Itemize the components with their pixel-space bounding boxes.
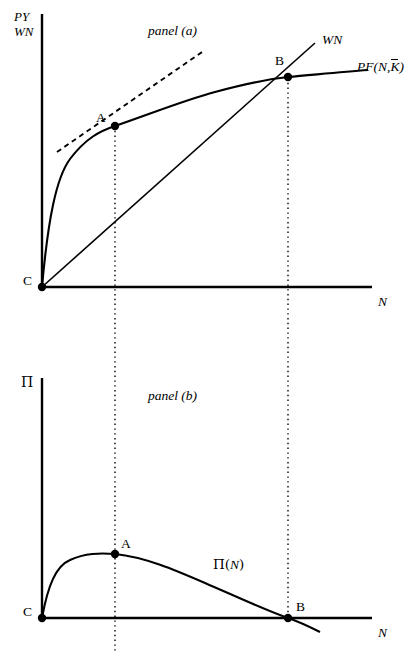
point-b-panel-a — [284, 73, 292, 81]
panel-a-title: panel (a) — [148, 24, 197, 38]
point-c-panel-a — [38, 283, 46, 291]
panel-b-x-axis-label: N — [378, 626, 387, 640]
panel-b-title: panel (b) — [148, 389, 197, 403]
figure-canvas — [0, 0, 411, 652]
profit-function-label: Π(N) — [213, 558, 244, 572]
point-a-panel-a — [111, 122, 119, 130]
point-a-panel-b — [111, 550, 119, 558]
panel-a-y-axis-label-line1: PY — [14, 10, 34, 25]
point-a-label-panel-a: A — [96, 111, 106, 125]
panel-a-group — [38, 14, 372, 291]
pf-label-prefix: PF(N, — [357, 59, 390, 74]
profit-function-curve — [42, 554, 320, 632]
panel-b-y-axis-label: Π — [21, 375, 33, 389]
economics-figure: PY WN panel (a) WN PF(N,K) A B C N Π pan… — [0, 0, 411, 652]
pi-label-prefix: Π( — [213, 556, 230, 572]
pi-label-var: N — [230, 557, 239, 572]
point-c-label-panel-a: C — [23, 274, 32, 288]
production-function-label: PF(N,K) — [357, 60, 404, 74]
point-c-label-panel-b: C — [23, 605, 32, 619]
panel-a-y-axis-label: PY WN — [14, 10, 34, 39]
point-a-label-panel-b: A — [121, 537, 131, 551]
panel-a-x-axis-label: N — [378, 295, 387, 309]
point-b-label-panel-b: B — [296, 600, 305, 614]
panel-b-group — [38, 378, 372, 632]
production-function-curve — [42, 70, 368, 287]
point-b-panel-b — [284, 614, 292, 622]
pf-label-kbar: K — [390, 60, 399, 74]
pi-label-suffix: ) — [239, 556, 244, 572]
wn-ray-label: WN — [322, 33, 342, 47]
pf-label-suffix: ) — [399, 59, 404, 74]
panel-a-y-axis-label-line2: WN — [14, 25, 34, 40]
point-b-label-panel-a: B — [275, 54, 284, 68]
point-c-panel-b — [38, 614, 46, 622]
